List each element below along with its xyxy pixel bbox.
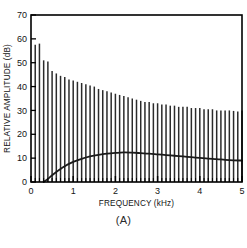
spectrum-chart: 012345 010203040506070 FREQUENCY (kHz) R… <box>0 0 247 210</box>
y-tick-label: 70 <box>17 10 27 20</box>
x-tick-label: 5 <box>239 186 244 196</box>
x-tick-label: 0 <box>28 186 33 196</box>
figure-caption: (A) <box>0 214 247 226</box>
x-tick-label: 2 <box>113 186 118 196</box>
x-tick-label: 3 <box>155 186 160 196</box>
x-tick-label: 1 <box>71 186 76 196</box>
y-tick-label: 20 <box>17 129 27 139</box>
y-tick-label: 40 <box>17 82 27 92</box>
y-axis-title: RELATIVE AMPLITUDE (dB) <box>3 44 12 153</box>
chart-svg: 012345 010203040506070 FREQUENCY (kHz) R… <box>0 0 247 210</box>
y-tick-label: 0 <box>22 177 27 187</box>
x-axis-title: FREQUENCY (kHz) <box>99 199 174 208</box>
y-tick-label: 50 <box>17 58 27 68</box>
y-tick-label: 30 <box>17 106 27 116</box>
x-tick-label: 4 <box>197 186 202 196</box>
figure-panel-a: 012345 010203040506070 FREQUENCY (kHz) R… <box>0 0 247 248</box>
y-tick-label: 10 <box>17 153 27 163</box>
y-tick-label: 60 <box>17 34 27 44</box>
